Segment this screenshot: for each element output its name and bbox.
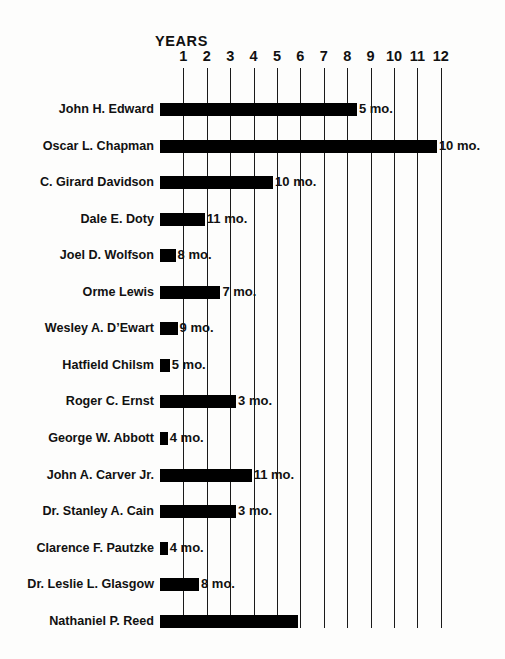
bar-row-label: C. Girard Davidson [40, 175, 154, 189]
bar [160, 505, 236, 518]
bar-row: John H. Edward5 mo. [0, 99, 505, 121]
bar-value-label: 8 mo. [178, 247, 212, 262]
bar-chart: YEARS 123456789101112 John H. Edward5 mo… [0, 0, 505, 659]
bar [160, 249, 176, 262]
x-tick-label-9: 9 [367, 48, 375, 64]
bar-row: Roger C. Ernst3 mo. [0, 391, 505, 413]
bar-row: Dr. Stanley A. Cain3 mo. [0, 501, 505, 523]
bar [160, 176, 273, 189]
bar-value-label: 4 mo. [170, 540, 204, 555]
bar [160, 359, 170, 372]
bar [160, 322, 178, 335]
bar-value-label: 3 mo. [238, 393, 272, 408]
bar [160, 103, 357, 116]
bar-row-label: Orme Lewis [83, 285, 154, 299]
bar-row-label: John A. Carver Jr. [47, 468, 154, 482]
bar-row-label: Nathaniel P. Reed [49, 614, 154, 628]
bar-row: Dale E. Doty11 mo. [0, 209, 505, 231]
bar-row: George W. Abbott4 mo. [0, 428, 505, 450]
bar-value-label: 8 mo. [201, 576, 235, 591]
bar-value-label: 11 mo. [254, 467, 294, 482]
bar [160, 542, 168, 555]
bar [160, 286, 220, 299]
bar-row-label: Roger C. Ernst [66, 394, 154, 408]
bar-row: Nathaniel P. Reed [0, 611, 505, 633]
x-tick-label-4: 4 [250, 48, 258, 64]
bar-row-label: Dale E. Doty [81, 212, 154, 226]
bar-row: Hatfield Chilsm5 mo. [0, 355, 505, 377]
bar-row: Oscar L. Chapman10 mo. [0, 136, 505, 158]
bar-row-label: Oscar L. Chapman [43, 139, 154, 153]
bar-row-label: Clarence F. Pautzke [36, 541, 154, 555]
x-tick-label-3: 3 [226, 48, 234, 64]
bar-row: Clarence F. Pautzke4 mo. [0, 538, 505, 560]
x-tick-label-12: 12 [433, 48, 449, 64]
x-tick-label-5: 5 [273, 48, 281, 64]
bar-value-label: 10 mo. [275, 174, 316, 189]
x-tick-label-8: 8 [343, 48, 351, 64]
bar-value-label: 4 mo. [170, 430, 204, 445]
bar-value-label: 11 mo. [207, 211, 247, 226]
x-tick-label-11: 11 [410, 48, 425, 64]
bar [160, 432, 168, 445]
bar-row-label: Dr. Stanley A. Cain [42, 504, 154, 518]
bar-row-label: Wesley A. D’Ewart [45, 321, 154, 335]
bar-value-label: 5 mo. [172, 357, 206, 372]
bar-row: Wesley A. D’Ewart9 mo. [0, 318, 505, 340]
bar [160, 578, 199, 591]
bar-row: Dr. Leslie L. Glasgow8 mo. [0, 574, 505, 596]
bar-value-label: 9 mo. [180, 320, 214, 335]
bar-value-label: 5 mo. [359, 101, 393, 116]
bar-row-label: Dr. Leslie L. Glasgow [27, 577, 154, 591]
bar-row: John A. Carver Jr.11 mo. [0, 465, 505, 487]
bar-row: Orme Lewis7 mo. [0, 282, 505, 304]
bar-row-label: Hatfield Chilsm [62, 358, 154, 372]
bar [160, 615, 298, 628]
bar-row-label: Joel D. Wolfson [60, 248, 154, 262]
bar-row-label: John H. Edward [59, 102, 154, 116]
x-tick-label-1: 1 [179, 48, 187, 64]
bar [160, 395, 236, 408]
bar-value-label: 10 mo. [439, 138, 480, 153]
bar-row: Joel D. Wolfson8 mo. [0, 245, 505, 267]
bar [160, 140, 437, 153]
bar-row: C. Girard Davidson10 mo. [0, 172, 505, 194]
bar-row-label: George W. Abbott [48, 431, 154, 445]
bar [160, 213, 205, 226]
x-tick-label-7: 7 [320, 48, 328, 64]
x-tick-label-6: 6 [296, 48, 304, 64]
x-tick-label-10: 10 [386, 48, 402, 64]
axis-title: YEARS [155, 33, 208, 49]
bar-value-label: 3 mo. [238, 503, 272, 518]
x-tick-label-2: 2 [203, 48, 211, 64]
bar [160, 469, 252, 482]
bar-value-label: 7 mo. [222, 284, 256, 299]
